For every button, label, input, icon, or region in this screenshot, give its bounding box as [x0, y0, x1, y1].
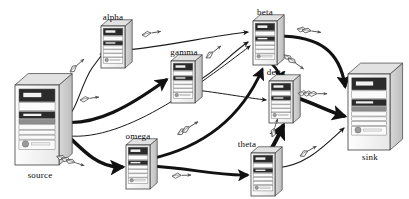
edge-source-beta-long — [62, 46, 250, 136]
node-label-delta: delta — [259, 67, 293, 77]
packet-glyph-pkt-delta-sink — [298, 90, 327, 97]
node-gamma[interactable] — [171, 55, 202, 103]
packet-glyph-pkt-omega-beta — [176, 120, 200, 136]
packet-glyph-pkt-source-alpha — [68, 58, 86, 74]
node-theta[interactable] — [251, 147, 282, 196]
node-sink[interactable] — [348, 63, 403, 150]
node-alpha[interactable] — [101, 20, 132, 68]
node-label-beta: beta — [249, 7, 281, 17]
packet-glyph-pkt-theta-sink — [299, 145, 318, 158]
edge-omega-theta — [151, 166, 247, 175]
network-diagram: sourcealphagammabetadeltaomegathetasink — [0, 0, 409, 199]
packet-glyph-pkt-source-gamma — [80, 96, 99, 103]
packet-glyph-pkt-alpha-beta — [142, 30, 161, 37]
edge-gamma-delta — [196, 90, 266, 100]
node-omega[interactable] — [126, 139, 157, 189]
node-label-alpha: alpha — [96, 12, 130, 22]
node-label-source: source — [16, 170, 64, 180]
packet-glyph-pkt-gamma-beta — [204, 45, 223, 60]
node-label-omega: omega — [117, 131, 159, 141]
node-label-gamma: gamma — [163, 47, 205, 57]
packet-glyph-pkt-beta-sink — [297, 26, 322, 36]
node-label-theta: theta — [230, 139, 264, 149]
node-label-sink: sink — [350, 152, 390, 162]
node-layer — [15, 15, 403, 196]
node-delta[interactable] — [269, 75, 300, 123]
node-source[interactable] — [15, 74, 72, 165]
packet-glyph-pkt-omega-theta — [172, 173, 191, 179]
edge-theta-sink — [276, 128, 344, 168]
node-beta[interactable] — [253, 15, 284, 65]
